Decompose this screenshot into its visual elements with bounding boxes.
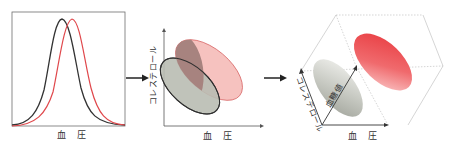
panel-3d-distribution: コレステロール 血糖値 血 圧: [290, 0, 453, 149]
x-axis-label-blood-pressure: 血 圧: [348, 130, 381, 141]
y-axis-label-cholesterol: コレステロール: [149, 46, 158, 106]
x-axis-label-blood-pressure: 血 圧: [203, 130, 236, 141]
arrow-right-icon: [264, 73, 288, 83]
arrow-right-icon: [126, 73, 150, 83]
distribution-1d-plot: [0, 0, 140, 149]
panel-2d-distribution: コレステロール 血 圧: [148, 0, 268, 149]
panel-1d-distribution: 血 圧: [0, 0, 140, 149]
distribution-3d-plot: コレステロール 血糖値 血 圧: [290, 0, 453, 149]
distribution-2d-plot: コレステロール 血 圧: [148, 0, 268, 149]
x-axis-label-blood-pressure: 血 圧: [57, 128, 90, 141]
